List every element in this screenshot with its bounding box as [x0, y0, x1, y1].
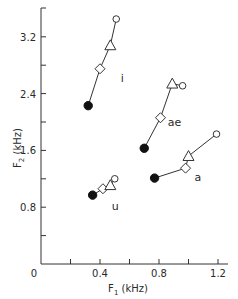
series-i: i: [84, 16, 124, 110]
x-tick-label: 1.2: [210, 268, 226, 279]
tick-marks: [41, 37, 218, 264]
vowel-label-i: i: [121, 72, 124, 85]
filled-circle-marker: [88, 191, 96, 199]
series-a: a: [150, 131, 219, 185]
formant-chart: 00.40.81.20.81.62.43.2 iaeau F1 (kHz) F2…: [0, 0, 238, 299]
diamond-marker: [155, 113, 165, 123]
open-circle-marker: [111, 176, 118, 183]
triangle-marker: [105, 40, 116, 50]
x-tick-label: 0.8: [151, 268, 167, 279]
filled-circle-marker: [140, 144, 148, 152]
open-circle-marker: [213, 131, 220, 138]
diamond-marker: [95, 64, 105, 74]
y-tick-label: 3.2: [20, 32, 36, 43]
series-u: u: [88, 176, 118, 213]
axes: [41, 8, 228, 264]
triangle-marker: [167, 78, 178, 88]
filled-circle-marker: [150, 174, 158, 182]
vowel-label-a: a: [194, 171, 201, 184]
connector-line: [88, 19, 116, 106]
x-tick-label: 0: [31, 268, 37, 279]
open-circle-marker: [113, 16, 120, 23]
axis-lines: [41, 8, 228, 264]
vowel-label-ae: ae: [168, 116, 182, 129]
vowel-label-u: u: [112, 200, 119, 213]
series-ae: ae: [140, 78, 186, 152]
x-tick-label: 0.4: [92, 268, 108, 279]
y-tick-label: 0.8: [20, 202, 36, 213]
y-tick-label: 2.4: [20, 89, 36, 100]
triangle-marker: [183, 151, 194, 161]
diamond-marker: [181, 163, 191, 173]
series-group: iaeau: [84, 16, 220, 213]
tick-labels: 00.40.81.20.81.62.43.2: [20, 32, 226, 279]
filled-circle-marker: [84, 101, 92, 109]
open-circle-marker: [179, 82, 186, 89]
x-axis-label: F1 (kHz): [108, 283, 148, 297]
